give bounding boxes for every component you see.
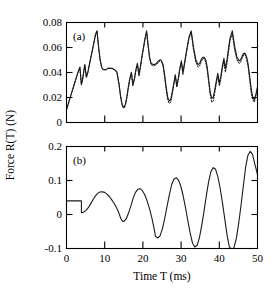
panel-a-x-tickmarks bbox=[105, 23, 220, 123]
panel-b-x-tickmarks bbox=[105, 147, 220, 249]
panel-b-ytick-3: 0.2 bbox=[48, 140, 62, 152]
panel-a-y-tickmarks bbox=[67, 48, 258, 98]
panel-a-ytick-3: 0.06 bbox=[43, 41, 63, 53]
panel-b-ytick-1: 0 bbox=[57, 208, 63, 220]
panel-b: 0.2 0.1 0 -0.1 0 10 20 30 bbox=[45, 140, 264, 283]
panel-b-y-ticklabels: 0.2 0.1 0 -0.1 bbox=[45, 140, 63, 254]
panel-a-ytick-2: 0.04 bbox=[43, 66, 63, 78]
panel-b-frame bbox=[67, 147, 258, 249]
panel-b-xtick-2: 20 bbox=[137, 252, 149, 264]
panel-a-ytick-4: 0.08 bbox=[43, 16, 63, 28]
panel-b-xtick-0: 0 bbox=[64, 252, 70, 264]
panel-a-curve-solid bbox=[67, 31, 258, 110]
panel-b-xtick-3: 30 bbox=[176, 252, 188, 264]
panel-b-x-ticklabels: 0 10 20 30 40 50 bbox=[64, 252, 264, 264]
panel-b-xtick-4: 40 bbox=[214, 252, 226, 264]
panel-b-xtick-1: 10 bbox=[99, 252, 111, 264]
panel-a-ytick-0: 0 bbox=[57, 116, 63, 128]
two-panel-line-chart: Force R(T) (N) 0.08 0.06 0.04 0.02 0 bbox=[0, 0, 278, 288]
panel-b-y-tickmarks bbox=[67, 181, 258, 215]
figure-container: Force R(T) (N) 0.08 0.06 0.04 0.02 0 bbox=[0, 0, 278, 288]
panel-b-xtick-5: 50 bbox=[252, 252, 264, 264]
x-axis-title-text: Time T (ms) bbox=[133, 270, 190, 283]
panel-b-label: (b) bbox=[73, 154, 86, 167]
panel-a-label: (a) bbox=[73, 30, 86, 43]
panel-b-ytick-2: 0.1 bbox=[48, 174, 62, 186]
panel-a-curve-dashed bbox=[67, 31, 258, 110]
panel-b-curve-solid bbox=[67, 151, 258, 249]
y-axis-title: Force R(T) (N) bbox=[4, 110, 17, 180]
panel-a-y-ticklabels: 0.08 0.06 0.04 0.02 0 bbox=[43, 16, 63, 128]
panel-a: 0.08 0.06 0.04 0.02 0 (a) bbox=[43, 16, 258, 128]
panel-a-ytick-1: 0.02 bbox=[43, 91, 62, 103]
y-axis-title-text: Force R(T) (N) bbox=[4, 110, 17, 180]
panel-b-ytick-0: -0.1 bbox=[45, 242, 62, 254]
